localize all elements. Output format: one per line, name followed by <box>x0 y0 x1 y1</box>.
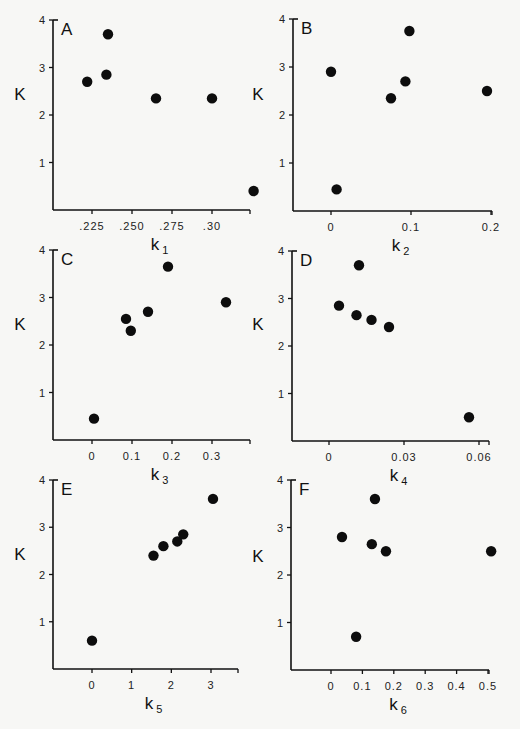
y-tick-label: 3 <box>39 292 45 304</box>
x-tick-label: 0 <box>88 450 95 462</box>
y-tick-label: 2 <box>279 109 285 121</box>
data-point <box>208 494 218 504</box>
data-point <box>354 260 364 270</box>
x-tick-label: .275 <box>159 220 184 232</box>
y-tick-label: 2 <box>39 569 45 581</box>
panel-label: A <box>61 20 73 39</box>
data-point <box>151 93 161 103</box>
y-tick-label: 3 <box>39 521 45 533</box>
panel-label: F <box>299 480 309 499</box>
scatter-panel-f: 123400.10.20.30.40.5FKk6 <box>252 474 497 716</box>
y-tick-label: 1 <box>279 157 285 169</box>
scatter-panel-c: 123400.10.20.3CKk3 <box>14 244 250 486</box>
data-point <box>404 26 414 36</box>
y-tick-label: 3 <box>39 62 45 74</box>
y-axis-title: K <box>14 315 26 334</box>
y-tick-label: 4 <box>39 474 45 486</box>
x-tick-label: 0.2 <box>482 221 500 233</box>
x-tick-label: 0.1 <box>402 221 420 233</box>
x-tick-label: 0.1 <box>353 680 371 692</box>
y-tick-label: 3 <box>277 522 283 534</box>
data-point <box>221 297 231 307</box>
panel-label: B <box>301 19 312 38</box>
y-tick-label: 1 <box>278 388 284 400</box>
scatter-panel-d: 123400.030.06DKk4 <box>252 245 491 487</box>
y-axis-title: K <box>252 315 264 334</box>
data-point <box>367 539 377 549</box>
data-point <box>163 261 173 271</box>
x-axis-title: k4 <box>390 466 408 487</box>
data-point <box>121 314 131 324</box>
panel-label: C <box>61 250 73 269</box>
x-tick-label: 2 <box>168 679 175 691</box>
x-tick-label: 0.06 <box>466 451 491 463</box>
data-point <box>207 93 217 103</box>
x-tick-label: 0.3 <box>416 680 434 692</box>
y-axis-title: K <box>14 85 26 104</box>
x-tick-label: 0.1 <box>123 450 141 462</box>
x-tick-label: .250 <box>119 220 144 232</box>
x-axis-title: k6 <box>389 695 407 716</box>
x-axis-title: k5 <box>145 694 163 715</box>
data-point <box>103 29 113 39</box>
data-point <box>178 529 188 539</box>
y-tick-label: 1 <box>39 157 45 169</box>
data-point <box>87 635 97 645</box>
panel-label: D <box>300 251 312 270</box>
data-point <box>331 184 341 194</box>
data-point <box>337 532 347 542</box>
data-point <box>143 307 153 317</box>
y-tick-label: 2 <box>39 339 45 351</box>
x-tick-label: 1 <box>128 679 135 691</box>
y-axis-title: K <box>252 85 264 104</box>
data-point <box>370 494 380 504</box>
y-tick-label: 1 <box>39 616 45 628</box>
data-point <box>366 315 376 325</box>
y-tick-label: 2 <box>277 569 283 581</box>
x-tick-label: 0.5 <box>479 680 497 692</box>
data-point <box>82 77 92 87</box>
scatter-panel-a: 1234.225.250.275.30AKk1 <box>14 14 258 256</box>
data-point <box>248 186 258 196</box>
scatter-panel-b: 123400.10.2BKk2 <box>252 13 500 257</box>
data-point <box>148 550 158 560</box>
x-tick-label: 0 <box>325 451 332 463</box>
data-point <box>386 93 396 103</box>
data-point <box>400 76 410 86</box>
y-tick-label: 1 <box>39 387 45 399</box>
x-tick-label: .30 <box>203 220 221 232</box>
data-point <box>351 632 361 642</box>
x-tick-label: 3 <box>207 679 214 691</box>
data-point <box>486 546 496 556</box>
data-point <box>334 300 344 310</box>
y-tick-label: 4 <box>39 244 45 256</box>
x-tick-label: 0 <box>327 680 334 692</box>
y-tick-label: 4 <box>279 13 285 25</box>
data-point <box>101 69 111 79</box>
y-tick-label: 2 <box>278 340 284 352</box>
figure-canvas: 1234.225.250.275.30AKk1123400.10.2BKk212… <box>0 0 520 729</box>
x-tick-label: 0 <box>88 679 95 691</box>
x-tick-label: 0 <box>327 221 334 233</box>
y-tick-label: 4 <box>39 14 45 26</box>
x-tick-label: 0.2 <box>385 680 403 692</box>
x-tick-label: 0.3 <box>203 450 221 462</box>
x-tick-label: .225 <box>79 220 104 232</box>
x-axis-title: k2 <box>392 236 410 257</box>
y-tick-label: 4 <box>278 245 284 257</box>
data-point <box>326 67 336 77</box>
y-axis-title: K <box>14 545 26 564</box>
data-point <box>384 322 394 332</box>
y-tick-label: 2 <box>39 109 45 121</box>
data-point <box>351 310 361 320</box>
data-point <box>158 541 168 551</box>
y-tick-label: 4 <box>277 474 283 486</box>
data-point <box>482 86 492 96</box>
y-tick-label: 3 <box>278 293 284 305</box>
x-axis-title: k3 <box>151 465 169 486</box>
data-point <box>89 413 99 423</box>
x-axis-title: k1 <box>151 235 169 256</box>
y-tick-label: 1 <box>277 617 283 629</box>
x-tick-label: 0.4 <box>447 680 465 692</box>
y-axis-title: K <box>252 547 264 566</box>
